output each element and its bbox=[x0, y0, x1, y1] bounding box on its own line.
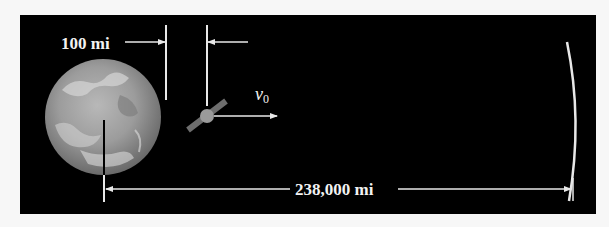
velocity-label: v0 bbox=[255, 84, 269, 106]
distance-label: 238,000 mi bbox=[295, 180, 374, 199]
moon-arc bbox=[567, 42, 576, 201]
altitude-label: 100 mi bbox=[61, 34, 110, 53]
orbit-diagram: 100 mi v0 238,000 mi bbox=[0, 0, 609, 227]
